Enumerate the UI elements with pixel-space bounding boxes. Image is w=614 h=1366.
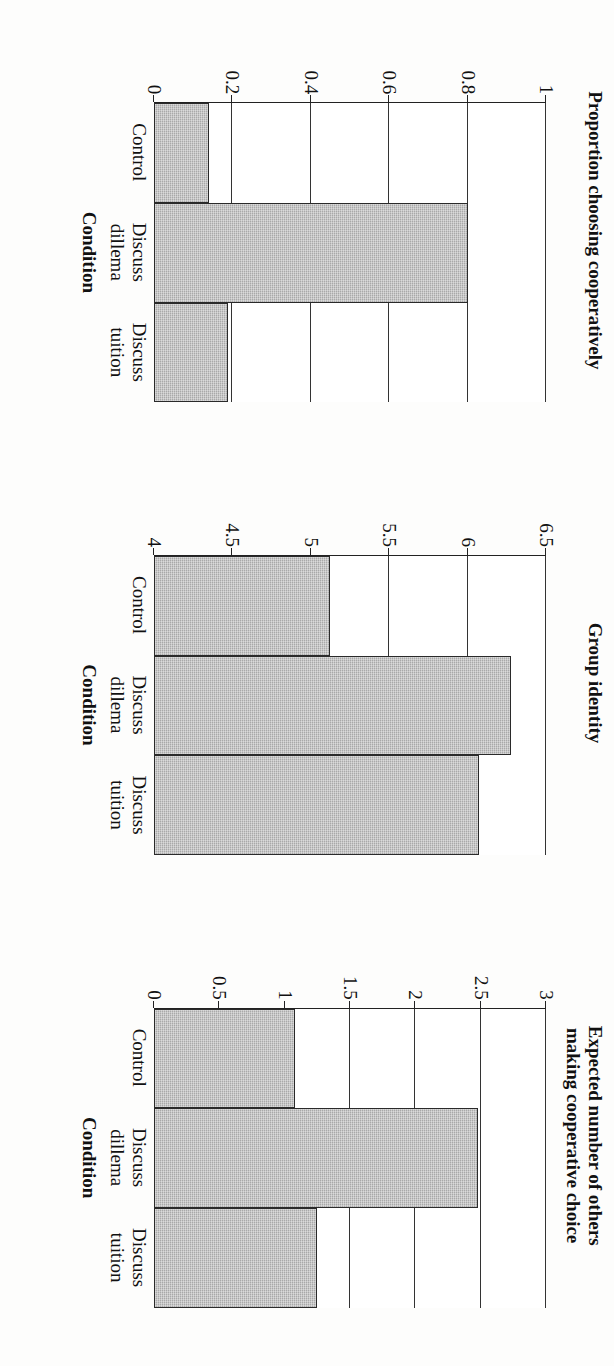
x-tick-label: Control (106, 1008, 150, 1108)
y-tick-mark (310, 548, 311, 555)
bar[interactable] (154, 103, 209, 203)
y-tick-mark (310, 95, 311, 102)
y-tick-mark (153, 548, 154, 555)
chart-panel: Expected number of others making coopera… (0, 909, 606, 1362)
y-tick-label: 4 (143, 538, 165, 548)
y-axis-ticks: 00.20.40.60.81 (154, 58, 546, 102)
y-tick-label: 1 (535, 85, 557, 95)
rotated-figure-wrapper: Proportion choosing cooperatively00.20.4… (0, 0, 614, 1366)
bar-slot (154, 103, 546, 203)
x-tick-label: Control (106, 102, 150, 202)
chart-panel: Proportion choosing cooperatively00.20.4… (0, 4, 606, 457)
y-tick-label: 0.2 (221, 71, 243, 95)
bar-group (154, 1009, 546, 1308)
bar[interactable] (154, 303, 228, 403)
y-tick-label: 0.8 (457, 71, 479, 95)
x-tick-label: Discuss tuition (106, 302, 150, 402)
y-tick-mark (545, 548, 546, 555)
bar-slot (154, 1208, 546, 1308)
y-tick-mark (467, 548, 468, 555)
y-tick-mark (231, 95, 232, 102)
x-tick-label: Control (106, 555, 150, 655)
plot-block: 00.511.522.53 (154, 964, 546, 1308)
bar[interactable] (154, 1009, 295, 1109)
y-tick-label: 0.5 (208, 976, 230, 1000)
plot-area (154, 102, 546, 402)
panel-title: Proportion choosing cooperatively (548, 91, 606, 369)
y-axis-ticks: 44.555.566.5 (154, 511, 546, 555)
plot-area (154, 555, 546, 855)
plot-area (154, 1008, 546, 1308)
y-tick-mark (388, 548, 389, 555)
y-tick-mark (545, 1001, 546, 1008)
y-tick-mark (284, 1001, 285, 1008)
y-tick-label: 6.5 (535, 523, 557, 547)
plot-block: 00.20.40.60.81 (154, 58, 546, 402)
y-tick-label: 0.4 (300, 71, 322, 95)
x-tick-label: Discuss tuition (106, 755, 150, 855)
bar[interactable] (154, 556, 330, 656)
x-tick-label: Discuss dillema (106, 1108, 150, 1208)
bar-slot (154, 755, 546, 855)
y-tick-label: 0 (143, 990, 165, 1000)
y-tick-label: 5.5 (378, 523, 400, 547)
x-axis-labels: ControlDiscuss dillemaDiscuss tuition (106, 555, 150, 855)
bar-slot (154, 303, 546, 403)
bar-group (154, 556, 546, 855)
y-tick-mark (480, 1001, 481, 1008)
y-tick-label: 1.5 (339, 976, 361, 1000)
y-tick-label: 3 (535, 990, 557, 1000)
y-tick-label: 1 (274, 990, 296, 1000)
bar-slot (154, 1009, 546, 1109)
y-tick-mark (153, 1001, 154, 1008)
y-tick-mark (349, 1001, 350, 1008)
y-tick-label: 2.5 (470, 976, 492, 1000)
bar-slot (154, 1108, 546, 1208)
x-axis-title: Condition (78, 1008, 100, 1308)
bar[interactable] (154, 1108, 478, 1208)
bar-group (154, 103, 546, 402)
y-tick-mark (467, 95, 468, 102)
x-tick-label: Discuss tuition (106, 1208, 150, 1308)
y-tick-mark (218, 1001, 219, 1008)
y-tick-label: 5 (300, 538, 322, 548)
y-tick-label: 2 (404, 990, 426, 1000)
y-tick-mark (545, 95, 546, 102)
y-tick-mark (231, 548, 232, 555)
x-axis-labels: ControlDiscuss dillemaDiscuss tuition (106, 102, 150, 402)
plot-block: 44.555.566.5 (154, 511, 546, 855)
y-tick-mark (153, 95, 154, 102)
y-axis-ticks: 00.511.522.53 (154, 964, 546, 1008)
y-tick-mark (414, 1001, 415, 1008)
y-tick-label: 0.6 (378, 71, 400, 95)
bar-slot (154, 656, 546, 756)
bar[interactable] (154, 1208, 317, 1308)
bar[interactable] (154, 755, 479, 855)
y-tick-label: 0 (143, 85, 165, 95)
x-tick-label: Discuss dillema (106, 202, 150, 302)
y-tick-label: 4.5 (221, 523, 243, 547)
x-axis-title: Condition (78, 102, 100, 402)
y-tick-label: 6 (457, 538, 479, 548)
chart-panel: Group identity44.555.566.5ControlDiscuss… (0, 457, 606, 910)
three-panel-bar-figure: Proportion choosing cooperatively00.20.4… (0, 0, 614, 1366)
panel-title: Group identity (548, 623, 606, 744)
bar-slot (154, 203, 546, 303)
bar[interactable] (154, 203, 468, 303)
bar[interactable] (154, 656, 512, 756)
bar-slot (154, 556, 546, 656)
panel-title: Expected number of others making coopera… (548, 1026, 606, 1246)
x-tick-label: Discuss dillema (106, 655, 150, 755)
x-axis-title: Condition (78, 555, 100, 855)
x-axis-labels: ControlDiscuss dillemaDiscuss tuition (106, 1008, 150, 1308)
y-tick-mark (388, 95, 389, 102)
